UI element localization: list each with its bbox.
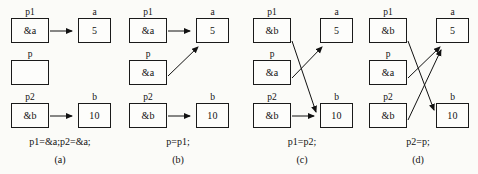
pointer-diagram-figure: p1 &a p p2 &b a 5 b 10 p1=&a;p2=&a; (a) … xyxy=(0,0,478,174)
panel-d-statement: p2=p; xyxy=(358,136,478,147)
node-b: 10 xyxy=(436,103,469,128)
node-a: 5 xyxy=(436,18,469,43)
node-p2: &b xyxy=(369,103,407,128)
node-b: 10 xyxy=(196,103,229,128)
node-label-b: b xyxy=(436,92,469,102)
node-p: &a xyxy=(369,60,407,85)
panel-b: p1 &a p &a p2 &b a 5 b 10 p=p1; (b) xyxy=(118,0,238,174)
edge-p-to-a xyxy=(168,47,198,76)
node-p1: &b xyxy=(369,18,407,43)
node-p1: &a xyxy=(129,18,167,43)
node-p2: &b xyxy=(129,103,167,128)
node-label-a: a xyxy=(436,7,469,17)
edge-p1-to-b xyxy=(292,41,316,112)
panel-d-id: (d) xyxy=(358,154,478,165)
node-label-p2: p2 xyxy=(369,92,407,102)
node-p2: &b xyxy=(253,103,291,128)
node-label-p: p xyxy=(129,49,167,59)
node-label-p1: p1 xyxy=(129,7,167,17)
node-label-p1: p1 xyxy=(369,7,407,17)
panel-a-statement: p1=&a;p2=&a; xyxy=(0,136,120,147)
edge-p-to-a xyxy=(292,47,322,78)
edge-p1-to-b xyxy=(408,41,434,110)
node-label-p: p xyxy=(253,49,291,59)
node-label-a: a xyxy=(320,7,353,17)
node-label-a: a xyxy=(78,7,111,17)
node-label-p1: p1 xyxy=(253,7,291,17)
panel-c: p1 &b p &a p2 &b a 5 b 10 p1=p2; (c) xyxy=(242,0,362,174)
panel-d: p1 &b p &a p2 &b a 5 b 10 p2=p; (d) xyxy=(358,0,478,174)
node-label-p2: p2 xyxy=(253,92,291,102)
node-label-p: p xyxy=(11,49,49,59)
node-label-a: a xyxy=(196,7,229,17)
node-label-p2: p2 xyxy=(129,92,167,102)
panel-a: p1 &a p p2 &b a 5 b 10 p1=&a;p2=&a; (a) xyxy=(0,0,120,174)
node-p xyxy=(11,60,49,85)
node-label-b: b xyxy=(320,92,353,102)
node-a: 5 xyxy=(320,18,353,43)
node-label-p: p xyxy=(369,49,407,59)
panel-c-id: (c) xyxy=(242,154,362,165)
node-label-p1: p1 xyxy=(11,7,49,17)
node-a: 5 xyxy=(78,18,111,43)
node-p: &a xyxy=(129,60,167,85)
node-label-p2: p2 xyxy=(11,92,49,102)
node-a: 5 xyxy=(196,18,229,43)
panel-b-id: (b) xyxy=(118,154,238,165)
node-label-b: b xyxy=(78,92,111,102)
panel-c-statement: p1=p2; xyxy=(242,136,362,147)
node-b: 10 xyxy=(78,103,111,128)
node-p: &a xyxy=(253,60,291,85)
panel-b-statement: p=p1; xyxy=(118,136,238,147)
node-p2: &b xyxy=(11,103,49,128)
node-label-b: b xyxy=(196,92,229,102)
node-b: 10 xyxy=(320,103,353,128)
panel-a-id: (a) xyxy=(0,154,120,165)
node-p1: &b xyxy=(253,18,291,43)
node-p1: &a xyxy=(11,18,49,43)
